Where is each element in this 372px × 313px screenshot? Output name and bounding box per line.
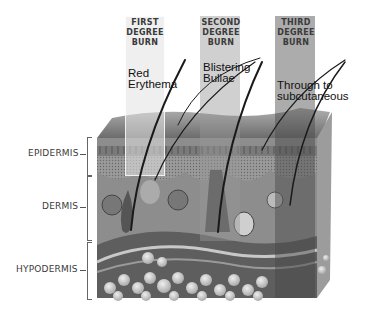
epidermis-bracket [87,137,92,176]
second-degree-description: Blistering Bullae [203,62,250,84]
dermis-bracket [87,176,92,241]
epidermis-tick [80,154,86,155]
first-degree-description: Red Erythema [128,68,177,90]
hypodermis-bracket [87,242,92,300]
first-degree-title: FIRST DEGREE BURN [125,18,165,48]
hypodermis-tick [80,270,86,271]
second-degree-title: SECOND DEGREE BURN [200,18,242,48]
third-degree-title: THIRD DEGREE BURN [275,18,317,48]
layer-label-dermis: DERMIS [42,201,78,211]
third-degree-description: Through to subcutaneous [277,80,349,102]
dermis-tick [80,207,86,208]
layer-label-epidermis: EPIDERMIS [28,148,79,158]
layer-label-hypodermis: HYPODERMIS [16,264,78,274]
